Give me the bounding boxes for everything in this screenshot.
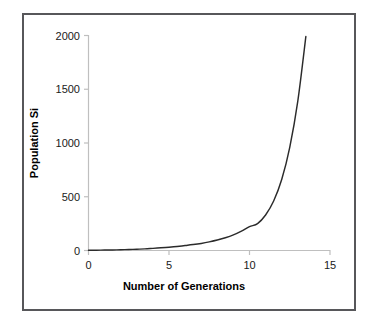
x-tick-label-15: 15 bbox=[324, 260, 336, 271]
y-tick-label-1000: 1000 bbox=[52, 138, 80, 149]
x-tick-label-0: 0 bbox=[85, 260, 91, 271]
y-axis-title: Population Si bbox=[29, 108, 40, 178]
y-tick-label-0: 0 bbox=[52, 245, 80, 256]
y-tick-label-1500: 1500 bbox=[52, 84, 80, 95]
x-tick-label-10: 10 bbox=[243, 260, 255, 271]
x-axis-title: Number of Generations bbox=[0, 281, 368, 292]
y-tick-label-500: 500 bbox=[52, 191, 80, 202]
y-tick-label-2000: 2000 bbox=[52, 30, 80, 41]
chart-figure: 2000 1500 1000 500 0 0 5 10 15 Number of… bbox=[0, 0, 368, 325]
y-axis-ticks bbox=[84, 36, 88, 251]
plot-canvas bbox=[0, 0, 368, 325]
data-series-line bbox=[89, 37, 306, 251]
x-tick-label-5: 5 bbox=[166, 260, 172, 271]
